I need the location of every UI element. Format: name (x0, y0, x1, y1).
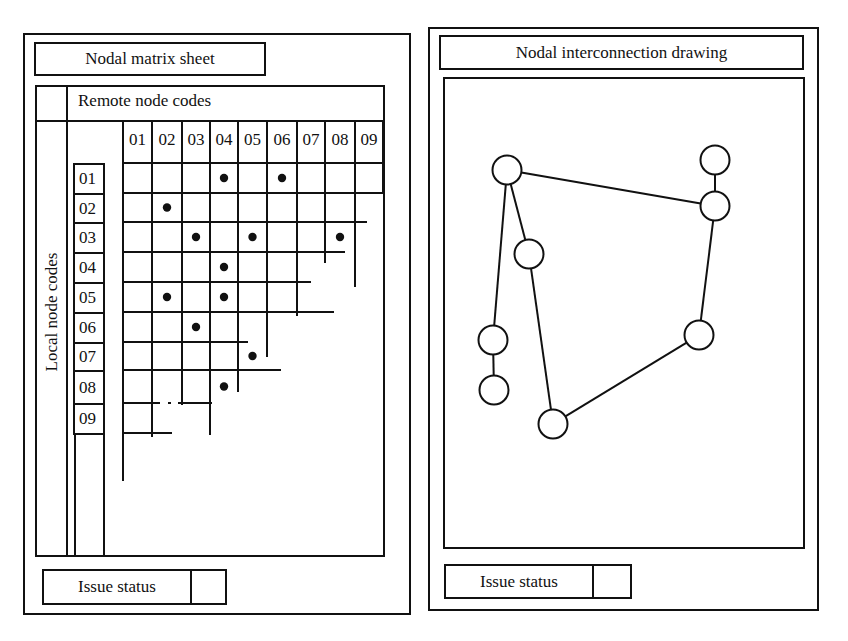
node-circle-A[interactable] (493, 156, 522, 185)
issue-status-value-right[interactable] (594, 566, 630, 597)
edge-H-C (701, 220, 713, 320)
edge-A-E (494, 184, 506, 325)
node-circle-G[interactable] (539, 410, 568, 439)
node-circle-H[interactable] (685, 321, 714, 350)
node-circle-E[interactable] (479, 326, 508, 355)
edge-D-G (531, 268, 551, 409)
network-graph (0, 0, 848, 641)
issue-status-label-right: Issue status (446, 566, 594, 597)
edge-A-D (511, 184, 526, 240)
node-circle-D[interactable] (515, 240, 544, 269)
edge-A-C (521, 172, 700, 203)
node-circle-B[interactable] (701, 146, 730, 175)
node-circle-C[interactable] (701, 192, 730, 221)
issue-status-box-right: Issue status (444, 564, 632, 599)
edge-G-H (565, 343, 686, 417)
node-circle-F[interactable] (480, 376, 509, 405)
